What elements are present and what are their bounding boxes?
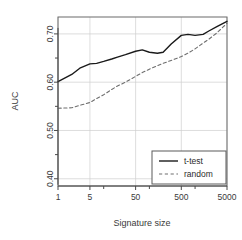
x-tick-label: 5 — [88, 192, 93, 202]
series-line-random — [58, 23, 227, 108]
x-tick-label: 5000 — [218, 192, 237, 202]
legend-label-t-test: t-test — [184, 156, 204, 166]
x-tick-label: 500 — [174, 192, 188, 202]
x-axis: 15505005000 — [56, 186, 237, 202]
y-tick-label: 0.60 — [45, 74, 55, 91]
legend-label-random: random — [184, 169, 213, 179]
chart-canvas: 0.400.500.600.70 15505005000 AUC Signatu… — [0, 0, 242, 240]
x-tick-label: 50 — [131, 192, 141, 202]
x-axis-title: Signature size — [113, 218, 170, 228]
y-tick-label: 0.40 — [45, 170, 55, 187]
y-tick-label: 0.70 — [45, 25, 55, 42]
y-axis: 0.400.500.600.70 — [45, 25, 58, 187]
series-layer — [58, 21, 227, 108]
y-tick-label: 0.50 — [45, 122, 55, 139]
legend: t-testrandom — [152, 151, 226, 184]
y-axis-title: AUC — [10, 91, 20, 111]
x-tick-label: 1 — [56, 192, 61, 202]
auc-vs-signature-size-chart: 0.400.500.600.70 15505005000 AUC Signatu… — [0, 0, 242, 240]
